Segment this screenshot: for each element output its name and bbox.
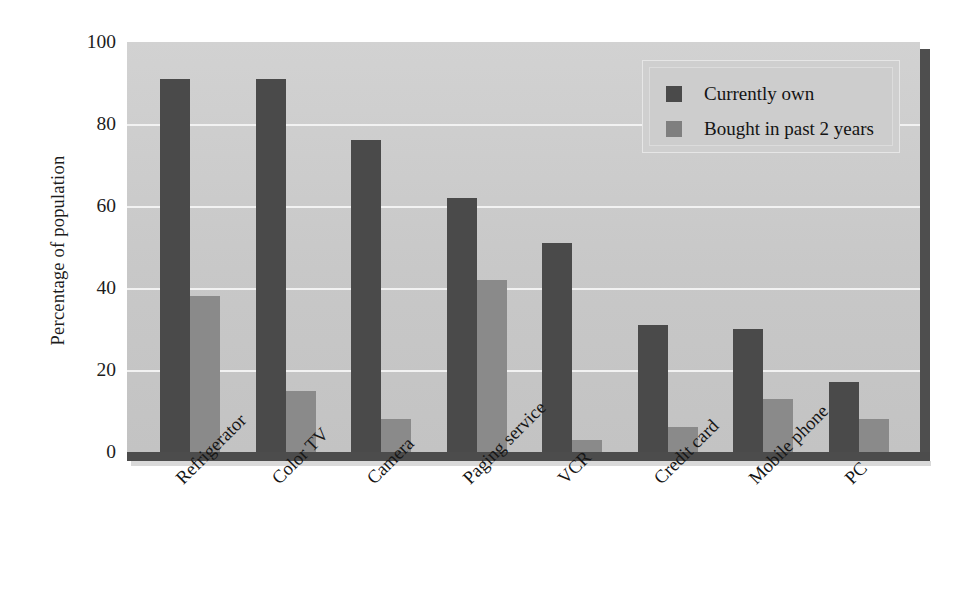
x-axis-label-paging-service: Paging service bbox=[459, 397, 551, 489]
x-axis-label-vcr: VCR bbox=[554, 447, 596, 489]
x-axis-label-credit-card: Credit card bbox=[650, 416, 723, 489]
x-axis-label-color-tv: Color TV bbox=[268, 424, 333, 489]
x-axis-label-mobile-phone: Mobile phone bbox=[745, 401, 833, 489]
x-axis-label-pc: PC bbox=[841, 458, 872, 489]
x-axis-category-labels: RefrigeratorColor TVCameraPaging service… bbox=[0, 0, 974, 604]
x-axis-label-refrigerator: Refrigerator bbox=[172, 410, 251, 489]
bar-chart: Percentage of population 100806040200 Cu… bbox=[0, 0, 974, 604]
x-axis-label-camera: Camera bbox=[363, 433, 419, 489]
